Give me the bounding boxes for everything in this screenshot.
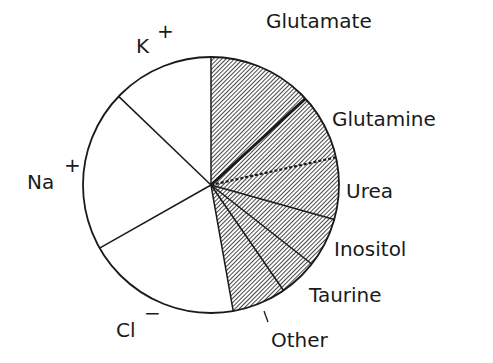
label-glutamate: Glutamate	[266, 9, 372, 33]
label-glutamine: Glutamine	[332, 107, 436, 131]
other-leader-line	[264, 311, 268, 322]
osmolyte-pie-chart: Glutamate Glutamine Urea Inositol Taurin…	[0, 0, 493, 363]
label-cl-superscript: −	[144, 301, 161, 325]
label-urea: Urea	[346, 179, 393, 203]
label-na: Na	[27, 170, 54, 194]
label-taurine: Taurine	[308, 283, 382, 307]
label-inositol: Inositol	[334, 237, 406, 261]
label-na-superscript: +	[64, 153, 81, 177]
label-other: Other	[271, 328, 329, 352]
label-cl: Cl	[116, 318, 136, 342]
label-k: K	[136, 34, 150, 58]
label-k-superscript: +	[157, 19, 174, 43]
